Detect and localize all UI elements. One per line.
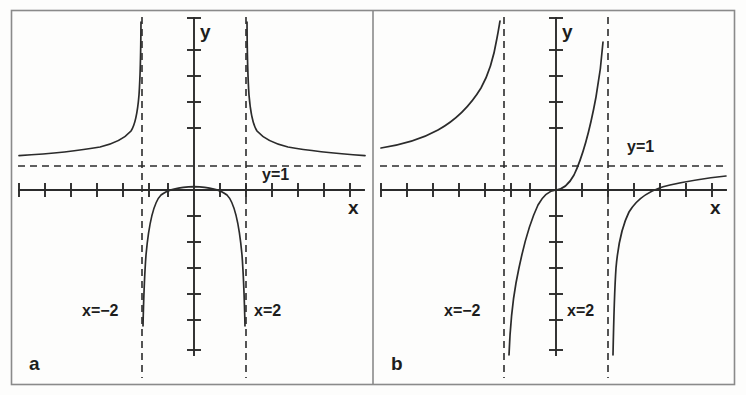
- y-axis-label-b: y: [562, 21, 573, 42]
- curve-a-left-branch: [19, 22, 141, 156]
- graphs-svg: y x y=1 x=−2 x=2 a: [0, 0, 746, 395]
- panel-a: y x y=1 x=−2 x=2 a: [18, 17, 366, 378]
- x-axis-label-b: x: [710, 197, 721, 218]
- figure-container: y x y=1 x=−2 x=2 a: [0, 0, 746, 395]
- panel-letter-a: a: [29, 353, 40, 374]
- right-vertical-asymptote-label-a: x=2: [254, 302, 281, 319]
- horizontal-asymptote-label-b: y=1: [627, 138, 654, 155]
- y-axis-label-a: y: [200, 21, 211, 42]
- panel-b: y x y=1 x=−2 x=2 b: [380, 17, 728, 378]
- curve-b-left-branch: [381, 21, 500, 148]
- x-axis-label-a: x: [348, 197, 359, 218]
- left-vertical-asymptote-label-a: x=−2: [82, 302, 119, 319]
- left-vertical-asymptote-label-b: x=−2: [444, 302, 481, 319]
- horizontal-asymptote-label-a: y=1: [262, 166, 289, 183]
- panel-letter-b: b: [391, 353, 403, 374]
- curve-a-right-branch: [247, 22, 365, 156]
- right-vertical-asymptote-label-b: x=2: [567, 302, 594, 319]
